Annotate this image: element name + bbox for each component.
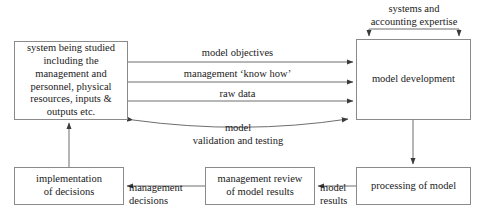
node-implementation-of-decisions-label: implementation of decisions [15, 173, 123, 199]
node-management-review[interactable]: management review of model results [205, 167, 315, 205]
edge-label-model-validation-and-testing: model validation and testing [178, 122, 298, 147]
node-model-development-label: model development [357, 73, 470, 86]
diagram-canvas: system being studied including the manag… [0, 0, 483, 220]
node-system-being-studied-label: system being studied including the manag… [15, 42, 127, 119]
node-processing-of-model-label: processing of model [357, 180, 470, 193]
edge-label-model-results: model results [320, 182, 358, 207]
node-system-being-studied[interactable]: system being studied including the manag… [14, 41, 128, 120]
edge-label-management-decisions: management decisions [129, 182, 199, 207]
edge-label-model-objectives: model objectives [185, 47, 290, 60]
edge-label-management-know-how: management ‘know how’ [172, 68, 303, 81]
node-processing-of-model[interactable]: processing of model [356, 167, 471, 205]
node-model-development[interactable]: model development [356, 39, 471, 120]
node-implementation-of-decisions[interactable]: implementation of decisions [14, 167, 124, 205]
edge-label-raw-data: raw data [200, 88, 275, 101]
node-management-review-label: management review of model results [206, 173, 314, 199]
edge-label-systems-and-accounting-expertise: systems and accounting expertise [355, 3, 473, 28]
